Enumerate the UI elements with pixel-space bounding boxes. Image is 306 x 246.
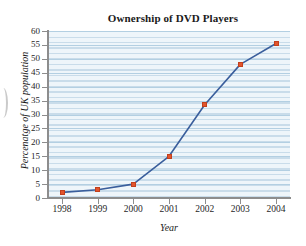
y-tick-mark (42, 142, 47, 143)
data-point-marker (202, 102, 207, 107)
data-point-marker (60, 190, 65, 195)
y-tick-label: 60 (22, 27, 40, 36)
y-tick-mark (42, 156, 47, 157)
x-axis-title: Year (48, 222, 290, 233)
x-tick-label: 2004 (256, 204, 296, 214)
y-tick-mark (42, 115, 47, 116)
y-tick-mark (42, 73, 47, 74)
x-tick-label: 2000 (113, 204, 153, 214)
y-tick-mark (42, 59, 47, 60)
data-point-markers (48, 31, 290, 198)
x-tick-label: 1998 (42, 204, 82, 214)
data-point-marker (131, 182, 136, 187)
y-axis-line (47, 30, 49, 199)
y-tick-mark (42, 170, 47, 171)
y-tick-mark (42, 101, 47, 102)
chart-title: Ownership of DVD Players (48, 12, 298, 24)
y-tick-label: 0 (22, 194, 40, 203)
y-tick-mark (42, 198, 47, 199)
y-tick-mark (42, 128, 47, 129)
y-tick-mark (42, 184, 47, 185)
y-tick-mark (42, 87, 47, 88)
y-axis-title: Percenatge of UK population (19, 36, 30, 186)
y-tick-mark (42, 31, 47, 32)
x-tick-label: 2001 (149, 204, 189, 214)
y-tick-mark (42, 45, 47, 46)
data-point-marker (238, 62, 243, 67)
plot-area (48, 31, 290, 198)
x-tick-label: 1999 (78, 204, 118, 214)
x-tick-label: 2002 (185, 204, 225, 214)
x-tick-label: 2003 (220, 204, 260, 214)
chart-figure: Ownership of DVD Players 605550454035302… (0, 0, 306, 246)
page-edge-artifact (0, 88, 8, 118)
data-point-marker (274, 41, 279, 46)
data-point-marker (95, 187, 100, 192)
data-point-marker (167, 154, 172, 159)
